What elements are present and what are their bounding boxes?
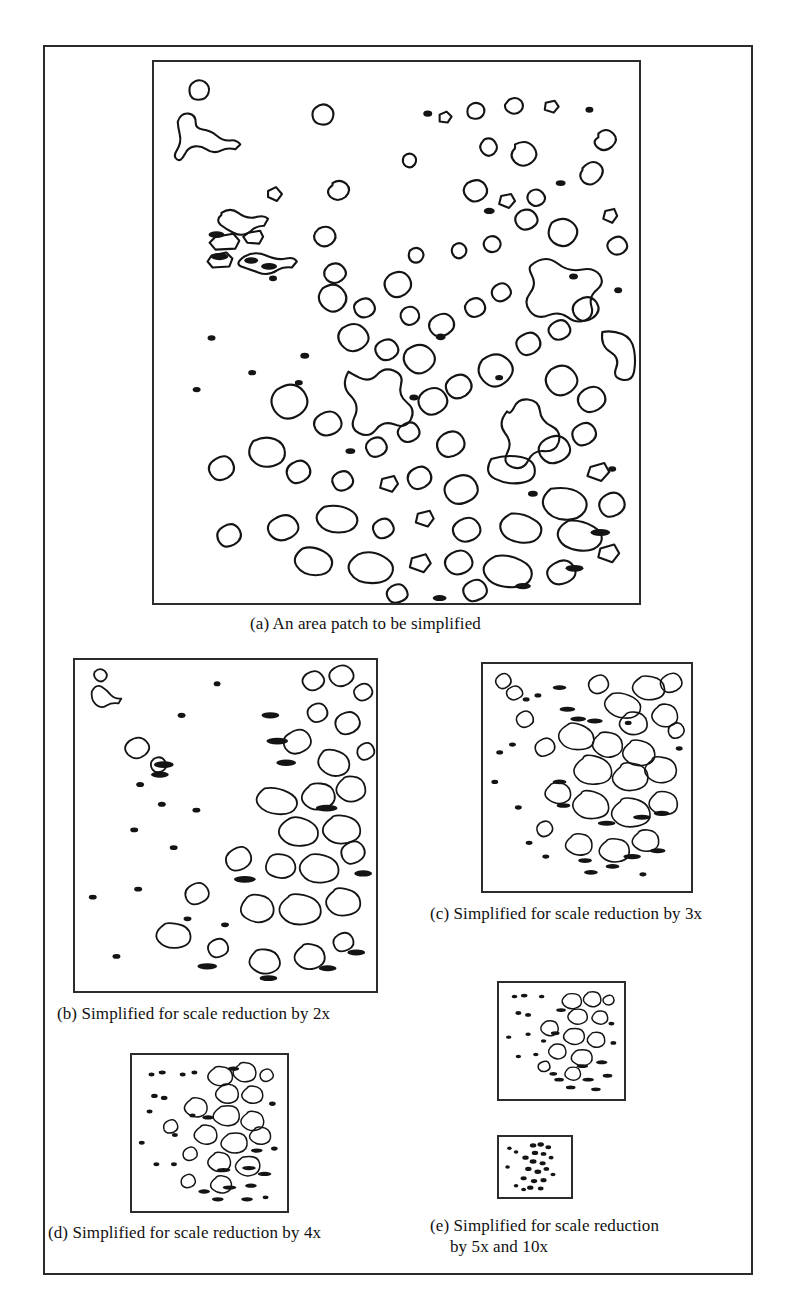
figure-page: (a) An area patch to be simplified	[0, 0, 795, 1314]
panel-e-caption: (e) Simplified for scale reductionby 5x …	[430, 1215, 659, 1257]
panel-e5-shapes	[499, 983, 624, 1099]
panel-e10-shapes	[499, 1137, 571, 1197]
panel-e-caption-line1: (e) Simplified for scale reduction	[430, 1216, 659, 1235]
panel-a-caption: (a) An area patch to be simplified	[250, 613, 481, 634]
panel-c-caption: (c) Simplified for scale reduction by 3x	[430, 903, 702, 924]
panel-d-shapes	[132, 1055, 287, 1211]
panel-c-simplified-3x	[481, 662, 693, 893]
panel-d-caption: (d) Simplified for scale reduction by 4x	[48, 1222, 321, 1243]
panel-c-shapes	[483, 664, 691, 891]
panel-d-simplified-4x	[130, 1053, 289, 1213]
panel-a-area-patch	[152, 60, 641, 605]
panel-e-caption-line2: by 5x and 10x	[430, 1236, 659, 1257]
panel-b-simplified-2x	[73, 658, 378, 993]
panel-e-simplified-10x	[497, 1135, 573, 1199]
panel-e-simplified-5x	[497, 981, 626, 1101]
panel-b-caption: (b) Simplified for scale reduction by 2x	[57, 1003, 330, 1024]
panel-b-shapes	[75, 660, 376, 991]
panel-a-shapes	[154, 62, 639, 603]
